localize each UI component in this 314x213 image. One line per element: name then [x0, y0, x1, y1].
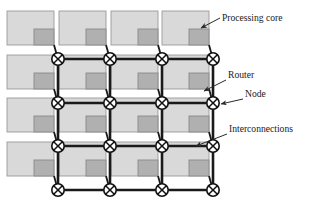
node-symbol[interactable]	[52, 53, 64, 65]
node-symbol[interactable]	[207, 97, 219, 109]
router-block	[138, 160, 158, 176]
node-symbol[interactable]	[156, 184, 168, 196]
node-symbol[interactable]	[156, 97, 168, 109]
router-block	[86, 160, 106, 176]
router-block	[189, 73, 209, 89]
node-symbol[interactable]	[207, 140, 219, 152]
processing-core-tile	[111, 11, 158, 45]
callout-node: Node	[221, 88, 266, 104]
router-block	[86, 116, 106, 132]
node-symbol[interactable]	[52, 97, 64, 109]
callout-label-interconnections: Interconnections	[229, 123, 293, 134]
router-block	[138, 29, 158, 45]
router-block	[138, 116, 158, 132]
node-symbol[interactable]	[156, 53, 168, 65]
router-block	[189, 160, 209, 176]
node-symbol[interactable]	[207, 53, 219, 65]
node-symbol[interactable]	[104, 184, 116, 196]
callout-processing-core: Processing core	[201, 12, 282, 28]
router-block	[34, 160, 54, 176]
router-block	[189, 116, 209, 132]
node-symbol[interactable]	[52, 140, 64, 152]
processing-core-tile	[7, 98, 54, 132]
processing-core-tile	[7, 142, 54, 176]
router-block	[34, 29, 54, 45]
diagram-canvas: Processing coreRouterNodeInterconnection…	[0, 0, 314, 213]
processing-core-tile	[59, 11, 106, 45]
router-block	[86, 29, 106, 45]
node-symbol[interactable]	[104, 140, 116, 152]
callout-annotations: Processing coreRouterNodeInterconnection…	[196, 12, 293, 146]
noc-mesh-diagram: Processing coreRouterNodeInterconnection…	[0, 0, 314, 213]
processing-core-tile	[7, 55, 54, 89]
callout-label-router: Router	[228, 69, 255, 80]
node-symbol[interactable]	[156, 140, 168, 152]
router-block	[86, 73, 106, 89]
router-block	[138, 73, 158, 89]
callout-label-node: Node	[245, 88, 266, 99]
node-symbol[interactable]	[52, 184, 64, 196]
node-symbol[interactable]	[207, 184, 219, 196]
callout-leader-line	[221, 99, 243, 104]
router-block	[34, 73, 54, 89]
node-symbol[interactable]	[104, 53, 116, 65]
router-block	[34, 116, 54, 132]
router-block	[189, 29, 209, 45]
node-symbol[interactable]	[104, 97, 116, 109]
processing-core-tile	[7, 11, 54, 45]
callout-label-processing-core: Processing core	[222, 12, 282, 23]
